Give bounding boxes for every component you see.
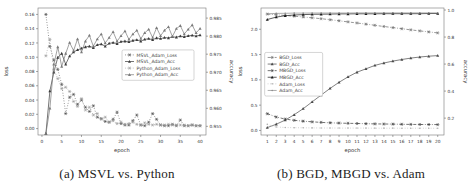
svg-text:loss: loss <box>3 66 9 76</box>
svg-text:0.6: 0.6 <box>448 62 455 67</box>
svg-text:0.0: 0.0 <box>251 128 258 133</box>
svg-text:0.4: 0.4 <box>448 89 455 94</box>
svg-text:0.10: 0.10 <box>25 55 35 60</box>
svg-text:0.8: 0.8 <box>448 35 455 40</box>
chart-b-canvas: 12345678910111213141516171819200.00.51.0… <box>234 0 468 163</box>
svg-text:8: 8 <box>329 139 332 144</box>
svg-text:15: 15 <box>390 139 396 144</box>
svg-text:loss: loss <box>237 66 243 76</box>
svg-text:18: 18 <box>417 139 423 144</box>
figure-panel-b: 12345678910111213141516171819200.00.51.0… <box>234 0 468 196</box>
svg-text:epoch: epoch <box>114 147 130 154</box>
svg-text:0.955: 0.955 <box>210 124 223 129</box>
svg-text:30: 30 <box>158 139 164 144</box>
svg-text:13: 13 <box>372 139 378 144</box>
svg-text:5: 5 <box>60 139 63 144</box>
svg-text:14: 14 <box>381 139 387 144</box>
svg-text:0.16: 0.16 <box>25 12 35 17</box>
svg-text:2.0: 2.0 <box>251 27 258 32</box>
svg-text:0.14: 0.14 <box>25 26 35 31</box>
svg-text:1: 1 <box>266 139 269 144</box>
svg-text:0.970: 0.970 <box>210 70 223 75</box>
svg-text:0.04: 0.04 <box>25 98 35 103</box>
svg-text:0.12: 0.12 <box>25 41 35 46</box>
svg-text:25: 25 <box>138 139 144 144</box>
svg-text:0.980: 0.980 <box>210 34 223 39</box>
svg-text:7: 7 <box>320 139 323 144</box>
svg-text:0.5: 0.5 <box>251 103 258 108</box>
svg-text:0.975: 0.975 <box>210 52 223 57</box>
svg-text:0.00: 0.00 <box>25 126 35 131</box>
svg-text:0.960: 0.960 <box>210 106 223 111</box>
svg-text:35: 35 <box>178 139 184 144</box>
svg-text:4: 4 <box>293 139 296 144</box>
svg-text:40: 40 <box>197 139 203 144</box>
svg-text:0.08: 0.08 <box>25 69 35 74</box>
svg-text:11: 11 <box>354 139 360 144</box>
svg-text:10: 10 <box>79 139 85 144</box>
caption-b: (b) BGD, MBGD vs. Adam <box>277 166 425 182</box>
svg-text:2: 2 <box>275 139 278 144</box>
svg-text:0.06: 0.06 <box>25 83 35 88</box>
svg-text:20: 20 <box>435 139 441 144</box>
svg-text:0.985: 0.985 <box>210 16 223 21</box>
svg-text:1.0: 1.0 <box>251 77 258 82</box>
svg-text:19: 19 <box>426 139 432 144</box>
svg-text:0.2: 0.2 <box>448 116 455 121</box>
svg-text:16: 16 <box>399 139 405 144</box>
svg-text:1.0: 1.0 <box>448 8 455 13</box>
svg-text:0.965: 0.965 <box>210 88 223 93</box>
svg-text:0.02: 0.02 <box>25 112 35 117</box>
svg-text:20: 20 <box>118 139 124 144</box>
caption-a: (a) MSVL vs. Python <box>59 166 174 182</box>
svg-text:6: 6 <box>311 139 314 144</box>
svg-text:accuracy: accuracy <box>462 60 468 83</box>
figure-row: 05101520253035400.000.020.040.060.080.10… <box>0 0 469 196</box>
svg-text:12: 12 <box>363 139 369 144</box>
svg-text:0: 0 <box>41 139 44 144</box>
figure-panel-a: 05101520253035400.000.020.040.060.080.10… <box>0 0 234 196</box>
svg-text:3: 3 <box>284 139 287 144</box>
svg-text:17: 17 <box>408 139 414 144</box>
svg-text:5: 5 <box>302 139 305 144</box>
svg-text:epoch: epoch <box>345 147 361 154</box>
svg-text:1.5: 1.5 <box>251 52 258 57</box>
chart-a-canvas: 05101520253035400.000.020.040.060.080.10… <box>0 0 234 163</box>
svg-text:15: 15 <box>99 139 105 144</box>
svg-text:10: 10 <box>345 139 351 144</box>
svg-text:9: 9 <box>338 139 341 144</box>
